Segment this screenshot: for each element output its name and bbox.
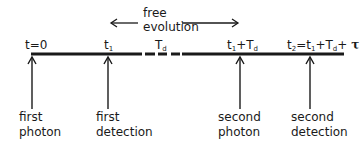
event-label-second-detection: second detection: [291, 110, 348, 140]
tick-label-t0: t=0: [25, 38, 47, 52]
event-label-first-detection: first detection: [96, 110, 153, 140]
tick-label-t1: t1: [104, 38, 113, 56]
free-evolution-line2: evolution: [143, 20, 199, 34]
free-evolution-label: free evolution: [143, 6, 199, 34]
tick-label-t2: t2=t1+Td+ τ: [287, 38, 359, 56]
tau-symbol: τ: [351, 38, 359, 52]
tick-label-t1-plus-td: t1+Td: [227, 38, 258, 56]
tick-label-td: Td: [155, 38, 167, 56]
event-label-first-photon: first photon: [19, 110, 61, 140]
free-evolution-left-arrow: [111, 19, 138, 27]
second-photon-arrow: [236, 57, 244, 109]
second-detection-arrow: [306, 57, 314, 109]
event-label-second-photon: second photon: [218, 110, 261, 140]
first-detection-arrow: [104, 57, 112, 109]
free-evolution-line1: free: [143, 6, 199, 20]
first-photon-arrow: [28, 57, 36, 109]
